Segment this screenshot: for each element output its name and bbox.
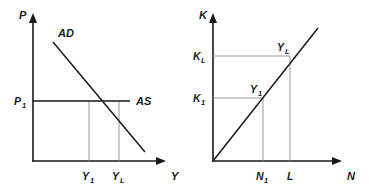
right-y-axis-label: K <box>199 9 208 21</box>
economics-figure: P Y AD AS P 1 Y 1 Y L <box>0 0 369 191</box>
right-point-y1: Y 1 <box>250 83 262 98</box>
left-xtick-yl-base: Y <box>112 170 120 182</box>
right-point-yl-base: Y <box>277 41 285 53</box>
right-xtick-n1: N 1 <box>256 170 268 185</box>
left-x-axis-label: Y <box>171 170 180 182</box>
right-ytick-k1-subscript: 1 <box>201 98 205 107</box>
left-y-axis-arrow-icon <box>29 13 37 23</box>
right-x-axis-arrow-icon <box>332 157 342 165</box>
right-xtick-n1-subscript: 1 <box>264 176 268 185</box>
as-curve-label: AS <box>135 95 152 107</box>
left-xtick-yl: Y L <box>112 170 125 185</box>
right-point-yl-subscript: L <box>285 47 290 56</box>
left-y-axis-label: P <box>19 9 27 21</box>
left-ytick-p1-base: P <box>14 95 22 107</box>
ad-as-chart: P Y AD AS P 1 Y 1 Y L <box>0 0 185 191</box>
ad-curve <box>53 42 145 152</box>
capital-labour-ray <box>213 28 318 161</box>
capital-labour-chart: K N K L K 1 N 1 L Y L <box>185 0 369 191</box>
left-xtick-y1: Y 1 <box>82 170 94 185</box>
left-ytick-p1-subscript: 1 <box>22 101 26 110</box>
right-x-axis-label: N <box>347 170 356 182</box>
right-ytick-kl: K L <box>193 50 206 65</box>
right-ytick-k1: K 1 <box>193 92 205 107</box>
left-xtick-yl-subscript: L <box>120 176 125 185</box>
right-point-y1-base: Y <box>250 83 258 95</box>
right-xtick-l: L <box>287 170 293 182</box>
right-xtick-l-base: L <box>287 170 293 182</box>
right-y-axis-arrow-icon <box>209 13 217 23</box>
right-point-yl: Y L <box>277 41 290 56</box>
left-xtick-y1-subscript: 1 <box>90 176 94 185</box>
right-ytick-kl-subscript: L <box>201 56 206 65</box>
right-point-y1-subscript: 1 <box>258 89 262 98</box>
left-ytick-p1: P 1 <box>14 95 26 110</box>
right-xtick-n1-base: N <box>256 170 264 182</box>
left-xtick-y1-base: Y <box>82 170 90 182</box>
ad-curve-label: AD <box>57 27 74 39</box>
left-x-axis-arrow-icon <box>156 157 166 165</box>
